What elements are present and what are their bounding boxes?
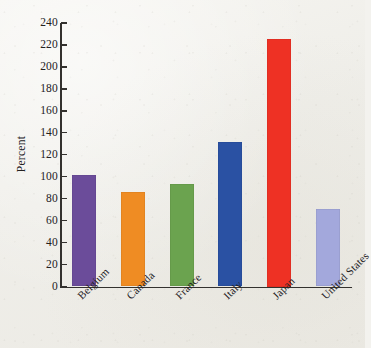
y-axis-tick-label: 140 xyxy=(24,127,58,139)
y-axis-tick-label-row: 60 xyxy=(0,215,58,227)
y-axis-tick-label: 160 xyxy=(24,105,58,117)
x-axis-line xyxy=(60,287,352,289)
y-axis-tick xyxy=(61,22,67,23)
y-axis-tick xyxy=(61,198,67,199)
y-axis-tick xyxy=(61,88,67,89)
bar-france xyxy=(170,184,194,286)
y-axis-tick-label: 120 xyxy=(24,149,58,161)
bar-canada xyxy=(121,192,145,286)
y-axis-tick xyxy=(61,264,67,265)
y-axis-tick xyxy=(61,154,67,155)
y-axis-tick-label: 40 xyxy=(24,237,58,249)
y-axis-tick xyxy=(61,66,67,67)
bar-italy xyxy=(218,142,242,287)
y-axis-tick-label: 180 xyxy=(24,83,58,95)
bar-belgium xyxy=(72,175,96,287)
y-axis-tick-label: 200 xyxy=(24,61,58,73)
y-axis-tick-label: 20 xyxy=(24,259,58,271)
y-axis-tick-label-row: 220 xyxy=(0,39,58,51)
y-axis-tick xyxy=(61,242,67,243)
y-axis-tick xyxy=(61,132,67,133)
y-axis-tick-label-row: 80 xyxy=(0,193,58,205)
y-axis-tick xyxy=(61,220,67,221)
y-axis-tick-label-row: 180 xyxy=(0,83,58,95)
y-axis-tick-label-row: 0 xyxy=(0,281,58,293)
y-axis-line xyxy=(60,23,62,288)
y-axis-tick-label: 240 xyxy=(24,17,58,29)
y-axis-tick-label: 220 xyxy=(24,39,58,51)
y-axis-tick-label: 100 xyxy=(24,171,58,183)
y-axis-tick-label: 60 xyxy=(24,215,58,227)
y-axis-tick-label-row: 240 xyxy=(0,17,58,29)
y-axis-tick-label: 80 xyxy=(24,193,58,205)
y-axis-tick-label-row: 100 xyxy=(0,171,58,183)
y-axis-tick-label-row: 160 xyxy=(0,105,58,117)
bar-japan xyxy=(267,39,291,286)
y-axis-tick-label-row: 120 xyxy=(0,149,58,161)
y-axis-tick xyxy=(61,44,67,45)
y-axis-tick-label-row: 20 xyxy=(0,259,58,271)
y-axis-tick-label-row: 140 xyxy=(0,127,58,139)
y-axis-tick-label: 0 xyxy=(24,281,58,293)
y-axis-tick xyxy=(61,176,67,177)
y-axis-tick xyxy=(61,110,67,111)
y-axis-tick-label-row: 200 xyxy=(0,61,58,73)
y-axis-tick-label-row: 40 xyxy=(0,237,58,249)
y-axis-tick xyxy=(61,286,67,287)
